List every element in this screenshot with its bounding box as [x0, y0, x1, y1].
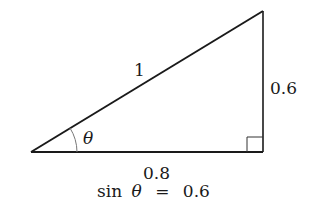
- caption-value: 0.6: [183, 181, 210, 201]
- caption-eq: =: [155, 181, 169, 201]
- hypotenuse-label: 1: [134, 60, 145, 80]
- right-angle-marker: [247, 137, 263, 152]
- opposite-label: 0.6: [270, 78, 297, 98]
- caption-func: sin: [97, 181, 122, 201]
- angle-label: θ: [83, 128, 93, 148]
- angle-arc: [70, 128, 77, 152]
- caption: sin θ = 0.6: [97, 181, 210, 201]
- triangle-diagram: 1 0.6 0.8 θ sin θ = 0.6: [0, 0, 316, 204]
- hypotenuse-line: [31, 11, 263, 152]
- adjacent-label: 0.8: [143, 163, 170, 183]
- caption-var: θ: [132, 181, 142, 201]
